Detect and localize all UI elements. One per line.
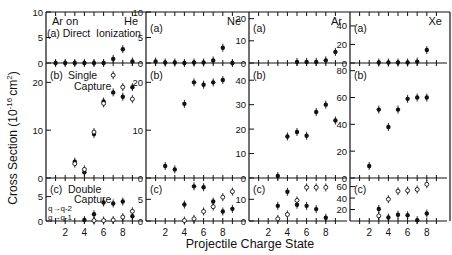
filled-circle-marker (230, 207, 234, 211)
y-tick-label: 5 (38, 191, 43, 202)
open-circle-marker (314, 185, 318, 189)
open-circle-marker (202, 209, 206, 213)
filled-circle-marker (314, 60, 318, 64)
filled-circle-marker (367, 164, 371, 168)
open-circle-marker (406, 189, 410, 193)
panel-label: (a) (253, 22, 266, 34)
filled-circle-marker (386, 215, 390, 219)
filled-circle-marker (182, 202, 186, 206)
y-tick-label: 0 (38, 173, 43, 184)
filled-circle-marker (405, 60, 409, 64)
panel-label: (a) (354, 22, 367, 34)
open-circle-marker (121, 85, 125, 89)
open-circle-marker (82, 167, 86, 171)
open-circle-marker (111, 218, 115, 222)
filled-circle-marker (221, 78, 225, 82)
y-tick-label: 40 (336, 119, 347, 130)
open-circle-marker (285, 213, 289, 217)
filled-circle-marker (230, 61, 234, 65)
y-tick-label: 60 (336, 181, 347, 192)
open-circle-marker (377, 214, 381, 218)
filled-circle-marker (304, 204, 308, 208)
filled-circle-marker (425, 48, 429, 52)
y-tick-label: 0 (241, 58, 246, 69)
filled-circle-marker (182, 102, 186, 106)
panel-label: (c) (253, 183, 265, 195)
panel-label: (b) (253, 69, 266, 81)
x-tick-label: 8 (323, 227, 329, 238)
x-tick-label: 8 (424, 227, 430, 238)
x-tick-label: 6 (405, 227, 411, 238)
y-axis-label: Cross Section (10-16cm2) (5, 71, 20, 204)
panel-label: (b) (50, 69, 63, 81)
y-tick-label: 20 (336, 39, 347, 50)
filled-circle-marker (314, 110, 318, 114)
filled-circle-marker (163, 164, 167, 168)
filled-circle-marker (163, 60, 167, 64)
filled-circle-marker (324, 58, 328, 62)
open-circle-marker (73, 162, 77, 166)
filled-circle-marker (92, 61, 96, 65)
filled-circle-marker (153, 59, 157, 63)
y-tick-label: 20 (336, 204, 347, 215)
open-circle-marker (121, 215, 125, 219)
y-tick-label: 0 (241, 216, 246, 227)
y-tick-label: 10 (32, 7, 43, 18)
filled-circle-marker (377, 60, 381, 64)
y-tick-label: 10 (32, 125, 43, 136)
filled-circle-marker (386, 60, 390, 64)
y-tick-label: 10 (235, 148, 246, 159)
open-circle-marker (415, 187, 419, 191)
open-circle-marker (130, 97, 134, 101)
y-tick-label: 20 (336, 146, 347, 157)
open-circle-marker (130, 209, 134, 213)
target-label-xe: Xe (429, 15, 442, 27)
x-tick-label: 8 (120, 227, 126, 238)
filled-circle-marker (111, 57, 115, 61)
filled-circle-marker (396, 60, 400, 64)
filled-circle-marker (92, 212, 96, 216)
filled-circle-marker (415, 59, 419, 63)
filled-circle-marker (130, 85, 134, 89)
filled-circle-marker (173, 60, 177, 64)
filled-circle-marker (386, 125, 390, 129)
y-tick-label: 5 (38, 32, 43, 43)
open-circle-marker (192, 217, 196, 221)
filled-circle-marker (425, 95, 429, 99)
open-circle-marker (111, 73, 115, 77)
filled-circle-marker (304, 60, 308, 64)
filled-circle-marker (101, 200, 105, 204)
open-circle-marker (425, 182, 429, 186)
x-tick-label: 2 (366, 227, 372, 238)
filled-circle-marker (73, 61, 77, 65)
y-tick-label: 0 (38, 216, 43, 227)
filled-circle-marker (192, 60, 196, 64)
open-circle-marker (396, 189, 400, 193)
filled-circle-marker (377, 107, 381, 111)
panel-label: (c) (354, 183, 366, 195)
open-circle-marker (324, 185, 328, 189)
filled-circle-marker (182, 61, 186, 65)
filled-circle-marker (314, 207, 318, 211)
filled-circle-marker (130, 59, 134, 63)
panel-label: (b) (150, 69, 163, 81)
open-circle-marker (102, 101, 106, 105)
y-tick-label: 0 (138, 173, 143, 184)
filled-circle-marker (396, 212, 400, 216)
x-axis-label: Projectile Charge State (186, 237, 315, 251)
x-tick-label: 2 (162, 227, 168, 238)
y-tick-label: 0 (38, 58, 43, 69)
filled-circle-marker (405, 213, 409, 217)
open-circle-marker (102, 219, 106, 223)
y-tick-label: 80 (336, 65, 347, 76)
header-ar-on: Ar on (52, 15, 78, 27)
filled-circle-marker (285, 134, 289, 138)
filled-circle-marker (201, 60, 205, 64)
y-tick-label: 40 (336, 20, 347, 31)
filled-circle-marker (111, 201, 115, 205)
panel-label-text: Capture (74, 193, 112, 205)
filled-circle-marker (425, 211, 429, 215)
x-tick-label: 2 (62, 227, 68, 238)
y-tick-label: 10 (235, 35, 246, 46)
y-tick-label: 20 (32, 77, 43, 88)
